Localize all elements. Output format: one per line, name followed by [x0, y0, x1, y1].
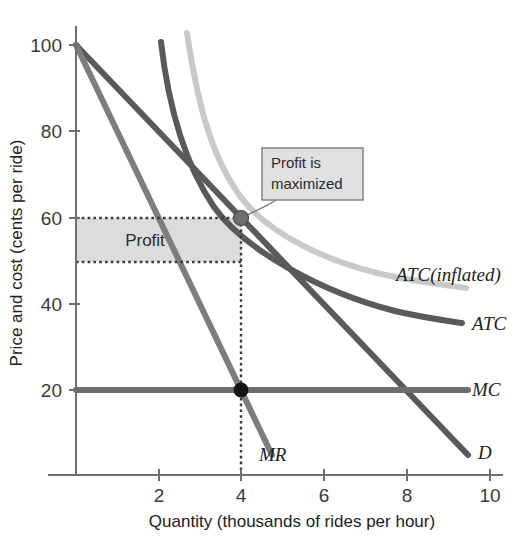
mr-label: MR — [258, 444, 287, 465]
x-axis-title: Quantity (thousands of rides per hour) — [149, 512, 435, 531]
x-tick-label-2: 2 — [154, 485, 165, 506]
profit-label: Profit — [125, 231, 165, 250]
y-tick-label-80: 80 — [41, 121, 62, 142]
y-tick-label-40: 40 — [41, 294, 62, 315]
x-tick-label-4: 4 — [236, 485, 247, 506]
y-tick-label-100: 100 — [30, 35, 62, 56]
chart-figure: 20 40 60 80 100 2 4 6 8 10 Price and cos… — [0, 0, 528, 547]
demand-label: D — [477, 442, 492, 463]
profit-maximizing-price-point — [234, 211, 249, 226]
x-tick-label-10: 10 — [479, 485, 500, 506]
x-tick-label-6: 6 — [319, 485, 330, 506]
y-tick-label-60: 60 — [41, 208, 62, 229]
atc-inflated-label: ATC(inflated) — [394, 264, 501, 286]
x-tick-label-8: 8 — [402, 485, 413, 506]
y-tick-label-20: 20 — [41, 380, 62, 401]
callout-line-1: Profit is — [271, 154, 321, 171]
callout-line-2: maximized — [271, 175, 343, 192]
y-axis-title: Price and cost (cents per ride) — [7, 140, 26, 367]
mr-equals-mc-point — [234, 383, 249, 398]
mc-label: MC — [471, 379, 501, 400]
economics-chart-svg: 20 40 60 80 100 2 4 6 8 10 Price and cos… — [0, 0, 528, 547]
atc-label: ATC — [470, 313, 506, 334]
